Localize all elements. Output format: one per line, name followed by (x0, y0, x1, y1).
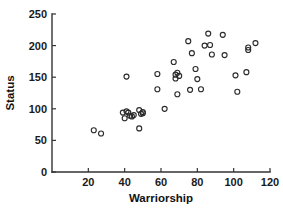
y-tick-label: 100 (29, 103, 47, 115)
data-point (222, 53, 227, 58)
axes (52, 14, 270, 172)
x-tick-label: 100 (224, 176, 242, 188)
data-point (155, 72, 160, 77)
y-tick-label: 250 (29, 8, 47, 20)
plot-canvas: 050100150200250 20406080100120 Warriorsh… (0, 0, 283, 209)
data-point (162, 106, 167, 111)
data-point (91, 128, 96, 133)
data-points (91, 31, 258, 136)
data-point (137, 126, 142, 131)
data-point (186, 39, 191, 44)
data-point (122, 116, 127, 121)
data-point (189, 51, 194, 56)
data-point (155, 87, 160, 92)
x-axis-title: Warriorship (129, 192, 193, 204)
data-point (209, 52, 214, 57)
y-tick-label: 150 (29, 71, 47, 83)
data-point (124, 74, 129, 79)
y-tick-label: 0 (41, 166, 47, 178)
data-point (220, 32, 225, 37)
scatter-plot-figure: 050100150200250 20406080100120 Warriorsh… (0, 0, 283, 209)
data-point (233, 73, 238, 78)
data-point (208, 42, 213, 47)
data-point (195, 77, 200, 82)
y-axis-title: Status (4, 75, 16, 110)
data-point (193, 66, 198, 71)
x-axis-ticks: 20406080100120 (82, 168, 279, 188)
x-tick-label: 120 (261, 176, 279, 188)
data-point (235, 89, 240, 94)
data-point (202, 43, 207, 48)
data-point (171, 60, 176, 65)
x-tick-label: 60 (155, 176, 167, 188)
y-tick-label: 200 (29, 40, 47, 52)
data-point (253, 41, 258, 46)
x-tick-label: 40 (119, 176, 131, 188)
data-point (99, 131, 104, 136)
x-tick-label: 80 (191, 176, 203, 188)
data-point (198, 87, 203, 92)
data-point (244, 70, 249, 75)
data-point (206, 31, 211, 36)
data-point (188, 87, 193, 92)
x-tick-label: 20 (82, 176, 94, 188)
data-point (175, 92, 180, 97)
y-tick-label: 50 (35, 134, 47, 146)
